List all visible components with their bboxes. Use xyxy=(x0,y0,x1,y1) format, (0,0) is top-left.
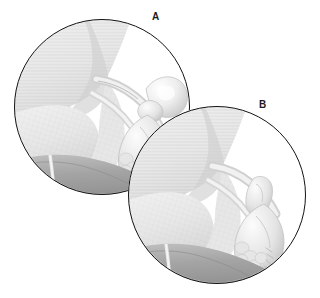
figure-root: A B xyxy=(0,0,320,298)
panel-b-label: B xyxy=(259,100,266,110)
panel-b xyxy=(128,106,306,284)
panel-a-label: A xyxy=(152,12,159,22)
panel-b-illustration xyxy=(128,106,306,284)
